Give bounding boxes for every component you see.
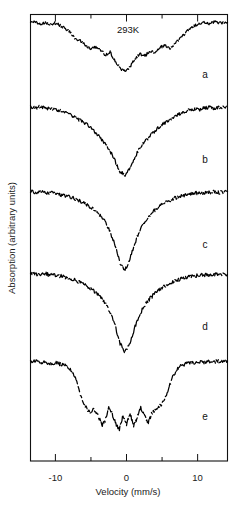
- y-axis-title: Absorption (arbitrary units): [6, 182, 17, 294]
- x-tick-label: 0: [124, 472, 129, 483]
- panel-label-b: b: [202, 154, 208, 165]
- panel-label-d: d: [202, 321, 208, 332]
- panel-label-c: c: [203, 239, 208, 250]
- x-tick-label: 10: [192, 472, 203, 483]
- panel-label-e: e: [202, 411, 208, 422]
- spectra-plot-canvas: Absorption (arbitrary units) -10010 abcd…: [0, 0, 237, 506]
- x-axis-title: Velocity (mm/s): [96, 486, 161, 497]
- panel-label-a: a: [202, 69, 208, 80]
- mossbauer-spectra-figure: Absorption (arbitrary units) -10010 abcd…: [0, 0, 237, 506]
- x-tick-label: -10: [49, 472, 63, 483]
- temperature-annotation: 293K: [117, 24, 140, 35]
